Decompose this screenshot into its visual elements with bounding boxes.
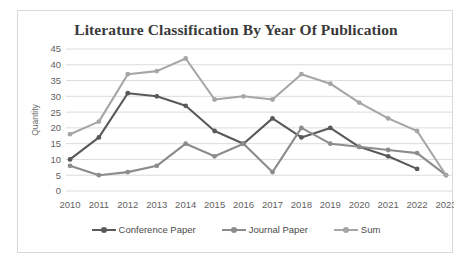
x-axis-tick-label: 2014 <box>175 199 196 210</box>
x-axis-tick-label: 2015 <box>204 199 225 210</box>
x-axis-tick-labels: 2010201120122013201420152016201720182019… <box>59 199 454 210</box>
series-data-point <box>415 167 420 172</box>
x-axis-tick-label: 2019 <box>320 199 341 210</box>
series-data-point <box>68 163 73 168</box>
y-axis-tick-label: 5 <box>56 170 61 181</box>
y-axis-tick-label: 10 <box>50 154 61 165</box>
x-axis-tick-label: 2012 <box>117 199 138 210</box>
legend-swatch-icon <box>334 225 358 234</box>
series-data-point <box>154 94 159 99</box>
series-data-point <box>328 126 333 131</box>
series-data-point <box>212 97 217 102</box>
series-data-point <box>241 141 246 146</box>
x-axis-tick-label: 2016 <box>233 199 254 210</box>
x-axis-tick-label: 2018 <box>291 199 312 210</box>
x-axis-tick-label: 2020 <box>349 199 370 210</box>
series-data-point <box>183 103 188 108</box>
y-axis-tick-label: 35 <box>50 75 61 86</box>
y-axis-tick-label: 45 <box>50 43 61 54</box>
y-axis-tick-label: 0 <box>56 185 61 196</box>
series-data-point <box>415 129 420 134</box>
series-data-point <box>270 116 275 121</box>
x-axis-tick-label: 2011 <box>89 199 109 210</box>
x-axis-tick-label: 2013 <box>146 199 167 210</box>
series-data-point <box>241 94 246 99</box>
legend-item[interactable]: Journal Paper <box>222 224 308 235</box>
legend-item-label: Journal Paper <box>249 224 308 235</box>
legend-marker-icon <box>231 227 237 233</box>
series-data-point <box>154 69 159 74</box>
series-data-point <box>357 144 362 149</box>
chart-legend: Conference PaperJournal PaperSum <box>18 224 454 235</box>
series-data-point <box>125 72 130 77</box>
y-axis-tick-labels: 051015202530354045 <box>50 43 61 196</box>
y-axis-tick-label: 25 <box>50 107 61 118</box>
y-axis-tick-label: 30 <box>50 91 61 102</box>
series-data-point <box>299 126 304 131</box>
legend-item[interactable]: Conference Paper <box>92 224 196 235</box>
series-data-point <box>270 170 275 175</box>
legend-item-label: Sum <box>361 224 381 235</box>
y-axis-tick-label: 15 <box>50 138 61 149</box>
series-data-point <box>125 170 130 175</box>
x-axis-tick-label: 2023 <box>435 199 454 210</box>
series-data-point <box>328 141 333 146</box>
y-axis-tick-label: 40 <box>50 59 61 70</box>
legend-item[interactable]: Sum <box>334 224 381 235</box>
series-data-point <box>97 119 102 124</box>
series-data-point <box>68 157 73 162</box>
series-data-point <box>125 91 130 96</box>
series-data-point <box>270 97 275 102</box>
series-data-point <box>212 129 217 134</box>
series-data-point <box>183 141 188 146</box>
series-data-point <box>328 81 333 86</box>
chart-container: Literature Classification By Year Of Pub… <box>17 10 453 253</box>
y-axis-title-group: Quantity <box>30 103 40 135</box>
legend-marker-icon <box>101 227 107 233</box>
legend-item-label: Conference Paper <box>119 224 196 235</box>
legend-swatch-icon <box>92 225 116 234</box>
series-data-point <box>357 100 362 105</box>
series-data-point <box>386 116 391 121</box>
series-data-point <box>97 135 102 140</box>
series-data-point <box>68 132 73 137</box>
x-axis-tick-label: 2010 <box>59 199 80 210</box>
y-axis-tick-label: 20 <box>50 122 61 133</box>
x-axis-tick-label: 2017 <box>262 199 283 210</box>
legend-marker-icon <box>343 227 349 233</box>
series-data-point <box>386 154 391 159</box>
series-data-point <box>154 163 159 168</box>
series-data-point <box>183 56 188 61</box>
series-data-point <box>97 173 102 178</box>
series-data-point <box>299 135 304 140</box>
y-axis-title: Quantity <box>30 103 40 135</box>
series-data-point <box>299 72 304 77</box>
x-axis-tick-label: 2022 <box>407 199 428 210</box>
chart-plot-area: 051015202530354045 201020112012201320142… <box>18 11 454 226</box>
series-line <box>70 93 417 169</box>
series-data-point <box>415 151 420 156</box>
x-axis-tick-label: 2021 <box>378 199 399 210</box>
legend-swatch-icon <box>222 225 246 234</box>
series-data-point <box>444 173 449 178</box>
series-data-point <box>386 148 391 153</box>
series-data-point <box>212 154 217 159</box>
